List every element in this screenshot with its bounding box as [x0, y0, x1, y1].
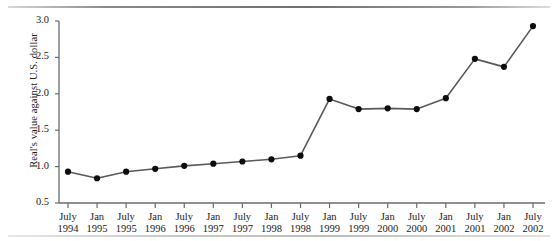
data-point-marker	[268, 156, 274, 162]
data-point-marker	[210, 161, 216, 167]
data-point-marker	[152, 166, 158, 172]
data-point-marker	[94, 175, 100, 181]
data-point-marker	[65, 169, 71, 175]
data-point-marker	[356, 106, 362, 112]
data-point-marker	[326, 96, 332, 102]
data-point-marker	[530, 23, 536, 29]
plot-axes	[59, 21, 545, 203]
data-point-marker	[414, 106, 420, 112]
data-point-marker	[443, 95, 449, 101]
data-point-marker	[239, 158, 245, 164]
data-point-marker	[501, 64, 507, 70]
data-point-markers	[65, 23, 536, 181]
data-point-marker	[472, 56, 478, 62]
data-point-marker	[297, 153, 303, 159]
line-plot-canvas	[0, 0, 558, 241]
axis-tick-marks	[55, 21, 533, 208]
data-point-marker	[123, 169, 129, 175]
chart-figure: Real's value against U.S. dollar 0.51.01…	[0, 0, 558, 241]
data-point-marker	[181, 163, 187, 169]
data-point-marker	[385, 105, 391, 111]
